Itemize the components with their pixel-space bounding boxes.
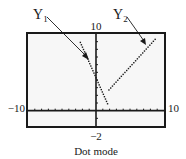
plot-dot — [102, 91, 103, 92]
plot-dot — [82, 46, 83, 47]
plot-dot — [100, 87, 101, 88]
plot-dot — [114, 83, 115, 84]
plot-dot — [110, 87, 111, 88]
plot-dot — [151, 43, 152, 44]
plot-dot — [128, 68, 129, 69]
plot-dot — [80, 42, 81, 43]
y1-label: Y1 — [33, 7, 48, 24]
plot-dot — [107, 103, 108, 104]
plot-dot — [115, 81, 116, 82]
plot-dot — [103, 94, 104, 95]
plot-dot — [88, 61, 89, 62]
ymin-label: −2 — [90, 130, 102, 142]
plot-dot — [97, 82, 98, 83]
plot-dot — [83, 49, 84, 50]
plot-dot — [144, 50, 145, 51]
plot-dot — [96, 79, 97, 80]
plot-dot — [112, 85, 113, 86]
plot-dot — [121, 76, 122, 77]
plot-dot — [93, 72, 94, 73]
plot-dot — [119, 78, 120, 79]
plot-dot — [122, 74, 123, 75]
plot-dot — [146, 48, 147, 49]
plot-dot — [137, 58, 138, 59]
plot-dot — [94, 75, 95, 76]
xmax-label: 10 — [168, 102, 180, 114]
plot-dot — [153, 41, 154, 42]
plot-dot — [105, 98, 106, 99]
plot-dot — [104, 96, 105, 97]
plot-dot — [133, 62, 134, 63]
plot-dot — [147, 46, 148, 47]
plot-dot — [126, 70, 127, 71]
plot-dot — [142, 52, 143, 53]
y2-label: Y2 — [113, 7, 128, 24]
plot-dot — [92, 70, 93, 71]
plot-dot — [117, 80, 118, 81]
plot-dot — [154, 39, 155, 40]
plot-dot — [89, 63, 90, 64]
plot-dot — [135, 60, 136, 61]
plot-dot — [106, 101, 107, 102]
xmin-label: −10 — [8, 102, 26, 114]
plot-dot — [91, 68, 92, 69]
plot-dot — [138, 56, 139, 57]
plot-dot — [131, 64, 132, 65]
plot-dot — [84, 51, 85, 52]
calculator-graph: Y1 Y2 10 −2 −10 10 Dot mode — [0, 0, 186, 159]
plot-dot — [90, 65, 91, 66]
caption: Dot mode — [74, 145, 118, 157]
plot-dot — [98, 84, 99, 85]
plot-dot — [140, 54, 141, 55]
plot-dot — [130, 66, 131, 67]
plot-dot — [149, 45, 150, 46]
plot-dot — [124, 72, 125, 73]
plot-dot — [101, 89, 102, 90]
plot-dot — [81, 44, 82, 45]
plot-dot — [95, 77, 96, 78]
plot-dot — [108, 89, 109, 90]
ymax-label: 10 — [91, 20, 103, 32]
